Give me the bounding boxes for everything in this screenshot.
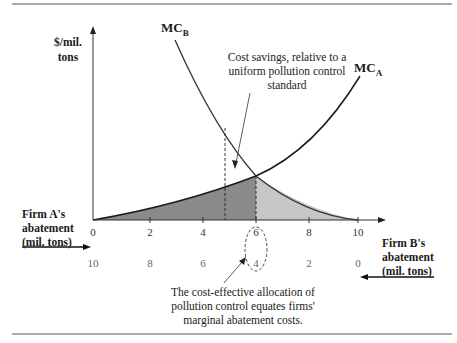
firm-a-axis-label: Firm A's abatement (mil. tons) (22, 207, 74, 249)
cost-savings-annotation: Cost savings, relative to a uniform poll… (212, 50, 362, 92)
firm-b-cost-area (256, 176, 358, 220)
tick-b-6: 6 (193, 257, 213, 269)
firm-b-axis-label: Firm B's abatement (mil. tons) (382, 236, 434, 278)
tick-a-8: 8 (299, 226, 319, 238)
alloc-line3: marginal abatement costs. (158, 313, 328, 327)
firm-b-line2: abatement (382, 250, 434, 264)
savings-line1: Cost savings, relative to a (212, 50, 362, 64)
savings-line3: standard (212, 78, 362, 92)
firm-a-arrow-icon (83, 244, 91, 250)
cost-effective-annotation: The cost-effective allocation of polluti… (158, 285, 328, 327)
mc-b-label: MCB (161, 20, 189, 38)
tick-b-0: 0 (348, 257, 368, 269)
alloc-pointer-arrow-icon (239, 257, 246, 265)
mc-b-label-sub: B (183, 28, 189, 38)
y-axis-label-line2: tons (48, 50, 88, 65)
alloc-line2: pollution control equates firms' (158, 299, 328, 313)
savings-pointer-arrow-icon (232, 160, 238, 169)
firm-b-line3: (mil. tons) (382, 264, 434, 278)
y-axis-label-line1: $/mil. (48, 35, 88, 50)
tick-a-0: 0 (83, 226, 103, 238)
tick-b-10: 10 (83, 257, 103, 269)
tick-a-10: 10 (348, 226, 368, 238)
tick-a-2: 2 (140, 226, 160, 238)
firm-a-line3: (mil. tons) (22, 235, 74, 249)
tick-b-8: 8 (140, 257, 160, 269)
firm-a-line2: abatement (22, 221, 74, 235)
firm-b-arrow-icon (360, 274, 368, 280)
tick-b-2: 2 (299, 257, 319, 269)
tick-b-4: 4 (246, 257, 266, 269)
savings-pointer-line (236, 93, 250, 163)
tick-a-6: 6 (246, 226, 266, 238)
alloc-line1: The cost-effective allocation of (158, 285, 328, 299)
alloc-pointer-line (224, 261, 243, 283)
firm-b-line1: Firm B's (382, 236, 434, 250)
y-axis-label: $/mil. tons (48, 35, 88, 65)
firm-a-cost-area (93, 176, 256, 220)
savings-line2: uniform pollution control (212, 64, 362, 78)
mc-a-label-sub: A (376, 68, 383, 78)
y-axis-arrow-icon (90, 26, 96, 34)
x-axis-arrow-icon (378, 217, 386, 223)
mc-b-label-main: MC (161, 20, 183, 35)
tick-a-4: 4 (193, 226, 213, 238)
firm-a-line1: Firm A's (22, 207, 74, 221)
